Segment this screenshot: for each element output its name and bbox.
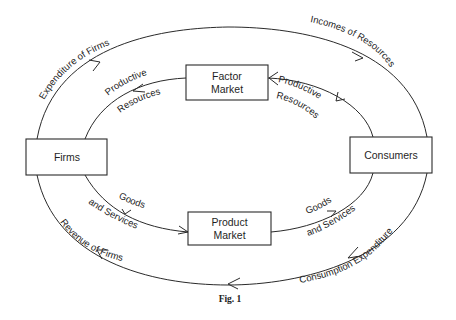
label-expenditure-of-firms: Expenditure of Firms (36, 36, 111, 101)
node-factor-market: Factor Market (186, 65, 268, 100)
label-revenue-of-firms: Revenue of Firms (58, 217, 124, 264)
arrow-productive-right-icon (336, 92, 345, 101)
firms-factor-arc (85, 78, 186, 139)
node-product-market: Product Market (188, 212, 271, 245)
arrow-expenditure-icon (89, 60, 100, 71)
factor-market-line1: Factor (212, 70, 242, 82)
arrow-fig-bottom-icon (228, 278, 240, 289)
label-goods-right-1: Goods (304, 194, 333, 216)
factor-consumers-arc (268, 78, 373, 137)
product-market-line1: Product (211, 216, 247, 228)
circular-flow-diagram: Factor Market Product Market Firms Consu… (0, 0, 456, 320)
arrow-product-market-icon (178, 226, 188, 234)
label-productive-left-1: Productive (103, 66, 148, 97)
node-firms: Firms (26, 139, 107, 175)
firms-label: Firms (54, 151, 80, 163)
consumers-label: Consumers (364, 149, 418, 161)
label-goods-left-1: Goods (117, 190, 147, 210)
label-incomes-of-resources: Incomes of Resources (310, 13, 398, 69)
label-productive-left-2: Resources (115, 85, 162, 114)
product-market-line2: Market (213, 229, 245, 241)
factor-market-line2: Market (211, 83, 243, 95)
figure-caption: Fig. 1 (219, 294, 242, 304)
node-consumers: Consumers (350, 137, 432, 173)
